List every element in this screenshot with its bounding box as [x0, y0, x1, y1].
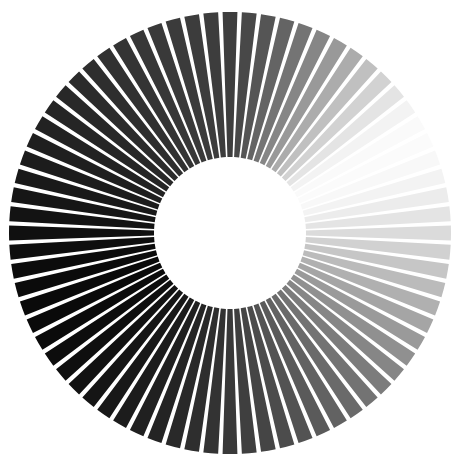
figure-canvas	[0, 0, 462, 464]
radial-spoke-chart	[0, 0, 462, 464]
